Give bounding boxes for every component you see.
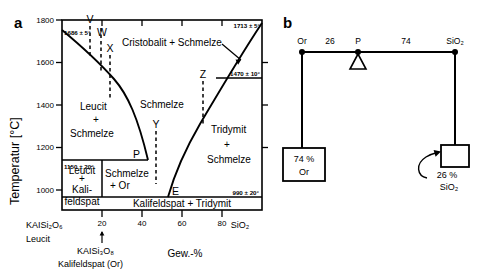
callout-sio2-phase: SiO₂ bbox=[440, 182, 459, 192]
label-E: E bbox=[172, 185, 179, 197]
panel-a-svg: a Temperatur [°C] 1800 1600 1400 1200 10… bbox=[0, 0, 275, 277]
lever-label-or: Or bbox=[297, 36, 307, 46]
field-tridymit-schmelze: Schmelze bbox=[207, 154, 251, 165]
temp-label-1686: 1686 ± 5° bbox=[64, 29, 91, 36]
field-schmelze-or-1: Schmelze bbox=[105, 168, 149, 179]
x-right-label: SiO₂ bbox=[231, 220, 250, 230]
panel-a: a Temperatur [°C] 1800 1600 1400 1200 10… bbox=[0, 0, 275, 277]
label-X: X bbox=[106, 42, 113, 54]
panel-b-letter: b bbox=[283, 14, 292, 31]
temp-label-1713: 1713 ± 5° bbox=[233, 22, 260, 29]
panel-b-svg: b Or 26 P 74 SiO₂ 74 % Or bbox=[275, 0, 493, 277]
y-axis-ticks bbox=[56, 20, 62, 190]
lever-label-sio2: SiO₂ bbox=[446, 36, 463, 46]
x-axis-title: Gew.-% bbox=[167, 248, 202, 259]
label-Y: Y bbox=[152, 118, 159, 130]
y-axis-title: Temperatur [°C] bbox=[8, 117, 22, 205]
fulcrum-triangle bbox=[350, 54, 366, 69]
x-left-formula: KAISi₂O₆ bbox=[26, 220, 63, 230]
field-tridymit: Tridymit bbox=[211, 124, 246, 135]
result-box-sio2 bbox=[441, 145, 469, 167]
leucite-liquidus bbox=[62, 30, 148, 160]
x-tick-20: 20 bbox=[98, 219, 107, 228]
x-left-name: Leucit bbox=[26, 234, 51, 244]
result-or-percent: 74 % bbox=[294, 154, 315, 164]
y-tick-1200: 1200 bbox=[36, 143, 54, 152]
x-tick-60: 60 bbox=[178, 219, 187, 228]
y-tick-1000: 1000 bbox=[36, 186, 54, 195]
cooling-path-labels: V W X Y Z bbox=[86, 13, 206, 130]
panel-b: b Or 26 P 74 SiO₂ 74 % Or bbox=[275, 0, 493, 277]
label-W: W bbox=[97, 26, 107, 38]
figure-root: a Temperatur [°C] 1800 1600 1400 1200 10… bbox=[0, 0, 493, 277]
x-axis-tick-labels: 20 40 60 80 bbox=[98, 219, 227, 228]
y-tick-1400: 1400 bbox=[36, 101, 54, 110]
x-axis-ticks bbox=[102, 210, 222, 217]
field-leucit: Leucit bbox=[80, 101, 107, 112]
x-or-annotation: KAISi₃O₈ Kalifeldspat (Or) bbox=[58, 231, 123, 269]
lever-segment-26: 26 bbox=[325, 36, 335, 46]
y-tick-1800: 1800 bbox=[36, 16, 54, 25]
field-leu-kf-3: Kali- bbox=[72, 184, 92, 195]
lever-segment-74: 74 bbox=[401, 36, 411, 46]
panel-a-letter: a bbox=[14, 14, 23, 31]
label-P: P bbox=[133, 148, 140, 160]
field-kalifeldspat-tridymit: Kalifeldspat + Tridymit bbox=[133, 198, 231, 209]
y-axis-tick-labels: 1800 1600 1400 1200 1000 bbox=[36, 16, 54, 195]
field-leucit-schmelze: Schmelze bbox=[70, 128, 114, 139]
x-endmember-left: KAISi₂O₆ Leucit bbox=[26, 220, 63, 244]
lever-label-p: P bbox=[355, 36, 361, 46]
top-axis-ticks bbox=[102, 20, 222, 26]
callout-sio2-percent: 26 % bbox=[437, 170, 458, 180]
x-or-name: Kalifeldspat (Or) bbox=[58, 259, 123, 269]
y-tick-1600: 1600 bbox=[36, 58, 54, 67]
label-Z: Z bbox=[200, 68, 207, 80]
field-schmelze-or-2: + Or bbox=[110, 180, 130, 191]
cristobalit-leader-arrow bbox=[222, 44, 241, 65]
field-tridymit-plus: + bbox=[224, 139, 230, 150]
field-cristobalit-schmelze: Cristobalit + Schmelze bbox=[122, 37, 222, 48]
right-axis-ticks bbox=[262, 63, 268, 148]
temp-label-1470: 1470 ± 10° bbox=[230, 70, 260, 77]
field-schmelze-main: Schmelze bbox=[140, 99, 184, 110]
field-leu-kf-2: + bbox=[79, 173, 85, 184]
result-or-phase: Or bbox=[299, 167, 309, 177]
x-or-formula: KAISi₃O₈ bbox=[77, 246, 114, 256]
silica-liquidus bbox=[168, 23, 262, 197]
field-leucit-plus: + bbox=[93, 114, 99, 125]
x-tick-80: 80 bbox=[218, 219, 227, 228]
field-leu-kf-4: feldspat bbox=[64, 196, 99, 207]
plot-frame bbox=[62, 20, 262, 210]
label-V: V bbox=[86, 13, 93, 25]
temp-label-990: 990 ± 20° bbox=[232, 189, 259, 196]
x-tick-40: 40 bbox=[138, 219, 147, 228]
